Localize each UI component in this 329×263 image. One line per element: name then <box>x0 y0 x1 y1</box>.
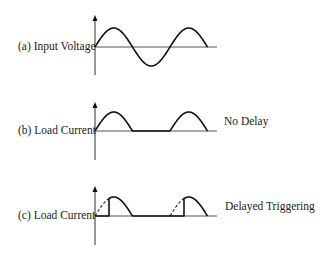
annotation-no-delay: No Delay <box>224 116 268 128</box>
panel-load-current-delayed <box>93 186 218 245</box>
panel-input-voltage <box>93 15 218 75</box>
label-load-current-c: (c) Load Current <box>18 210 95 222</box>
panel-load-current-no-delay <box>93 102 218 160</box>
load-current-delayed-wave <box>95 197 208 216</box>
annotation-delayed-triggering: Delayed Triggering <box>225 201 315 213</box>
rectifier-waveform-diagram: (a) Input Voltage (b) Load Current No De… <box>0 0 329 263</box>
label-input-voltage: (a) Input Voltage <box>18 41 96 53</box>
label-load-current-b: (b) Load Current <box>18 125 96 137</box>
arrowhead-icon <box>93 186 98 192</box>
load-current-rectified-wave <box>95 112 208 131</box>
arrowhead-icon <box>93 102 98 108</box>
arrowhead-icon <box>93 15 98 21</box>
